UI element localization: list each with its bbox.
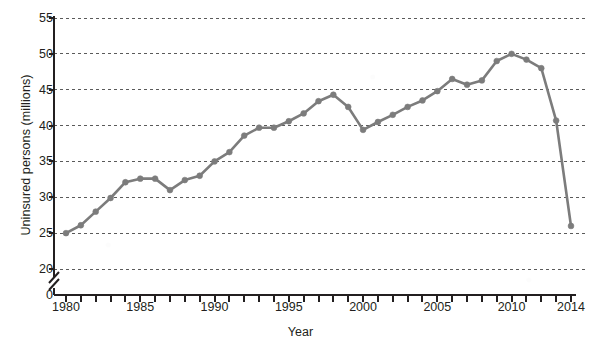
data-point xyxy=(108,195,114,201)
data-point xyxy=(271,125,277,131)
data-point xyxy=(123,179,129,185)
data-point xyxy=(524,57,530,63)
data-point xyxy=(420,98,426,104)
data-point xyxy=(226,149,232,155)
plot-area xyxy=(0,0,601,350)
data-point xyxy=(375,119,381,125)
data-point xyxy=(152,176,158,182)
data-point xyxy=(63,230,69,236)
data-point xyxy=(316,98,322,104)
data-point xyxy=(167,187,173,193)
data-point xyxy=(509,51,515,57)
data-point xyxy=(330,92,336,98)
data-line xyxy=(66,54,571,233)
data-point xyxy=(345,104,351,110)
data-point xyxy=(538,65,544,71)
data-point xyxy=(182,177,188,183)
line-chart: Uninsured persons (millions) Year 020253… xyxy=(0,0,601,350)
data-point xyxy=(390,112,396,118)
data-point xyxy=(449,76,455,82)
data-point xyxy=(286,118,292,124)
data-point xyxy=(479,77,485,83)
data-point xyxy=(434,88,440,94)
data-point xyxy=(93,209,99,215)
data-point xyxy=(568,223,574,229)
data-point xyxy=(553,118,559,124)
data-point xyxy=(256,125,262,131)
data-point xyxy=(360,127,366,133)
data-point xyxy=(405,104,411,110)
data-point xyxy=(301,110,307,116)
data-point xyxy=(137,176,143,182)
data-point xyxy=(212,159,218,165)
data-point xyxy=(197,173,203,179)
data-point xyxy=(464,82,470,88)
data-point xyxy=(494,58,500,64)
data-point xyxy=(241,133,247,139)
data-point xyxy=(78,222,84,228)
